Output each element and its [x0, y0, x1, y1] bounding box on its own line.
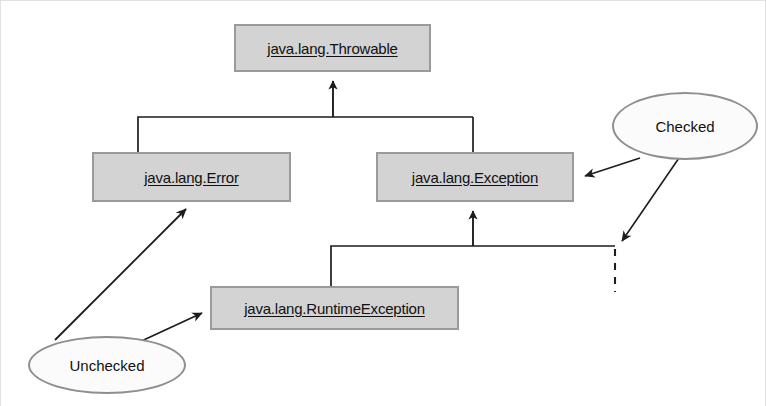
class-label-exception: java.lang.Exception [412, 169, 538, 186]
annotation-checked-to-branch [622, 158, 679, 241]
class-label-throwable: java.lang.Throwable [267, 40, 397, 57]
diagram-canvas: java.lang.Throwable java.lang.Error java… [0, 0, 766, 406]
class-box-exception[interactable]: java.lang.Exception [376, 152, 574, 202]
annotation-checked-to-exception [585, 158, 640, 176]
generalization-exception-fork [331, 211, 615, 292]
class-box-error[interactable]: java.lang.Error [92, 152, 291, 202]
class-label-error: java.lang.Error [144, 169, 239, 186]
class-box-runtimeexception[interactable]: java.lang.RuntimeException [210, 286, 459, 330]
note-ellipse-checked[interactable]: Checked [612, 92, 758, 160]
class-label-runtimeexception: java.lang.RuntimeException [244, 300, 425, 317]
class-box-throwable[interactable]: java.lang.Throwable [234, 24, 431, 72]
note-label-checked: Checked [655, 118, 714, 135]
annotation-unchecked-to-error [55, 209, 186, 340]
note-ellipse-unchecked[interactable]: Unchecked [28, 336, 186, 394]
frame-top-edge [0, 0, 766, 1]
note-label-unchecked: Unchecked [69, 357, 144, 374]
frame-left-edge [0, 0, 1, 406]
generalization-throwable-fork [138, 81, 473, 152]
